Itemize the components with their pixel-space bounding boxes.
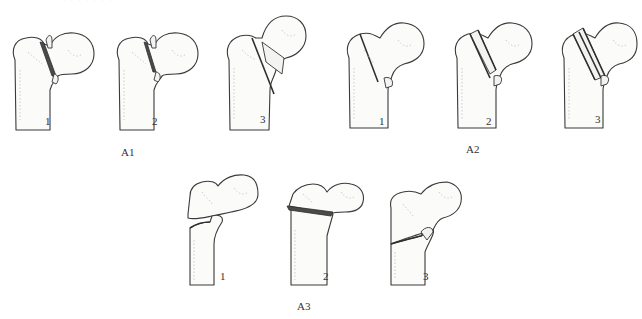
group-label-a2: A2 <box>466 143 479 155</box>
femur-a1-1 <box>8 30 103 130</box>
femur-a1-3 <box>222 12 317 130</box>
figure-number: 3 <box>260 113 266 125</box>
figure-number: 2 <box>152 115 158 127</box>
figure-number: 1 <box>220 270 226 282</box>
femur-a3-1 <box>182 170 277 285</box>
figure-number: 1 <box>379 115 385 127</box>
cut-off-header-text: · · · · · · · <box>62 0 113 5</box>
figure-number: 3 <box>595 113 601 125</box>
femur-a3-3 <box>385 180 480 285</box>
group-label-a1: A1 <box>121 146 134 158</box>
femur-a2-2 <box>450 20 545 130</box>
figure-number: 2 <box>323 270 329 282</box>
femur-a2-1 <box>342 20 437 130</box>
group-label-a3: A3 <box>297 300 310 312</box>
femur-a3-2 <box>285 180 380 285</box>
femur-a1-2 <box>112 30 207 130</box>
figure-number: 1 <box>45 115 51 127</box>
figure-number: 2 <box>486 115 492 127</box>
figure-number: 3 <box>423 270 429 282</box>
